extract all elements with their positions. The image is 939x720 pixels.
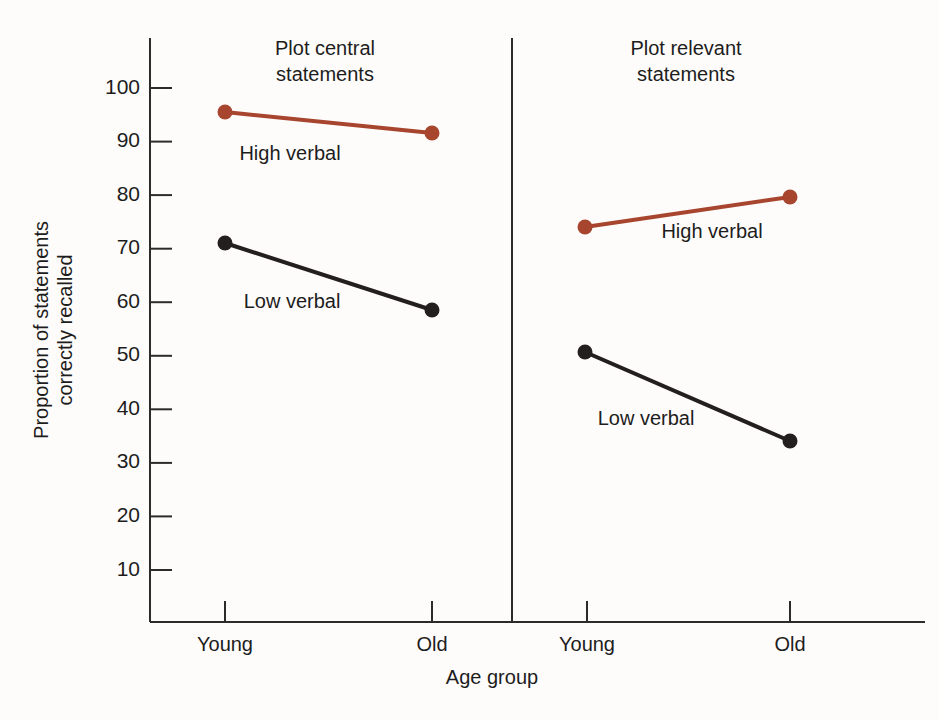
panel-central-low-verbal-label: Low verbal — [244, 290, 341, 312]
x-tick-label-right-old: Old — [774, 633, 805, 655]
y-tick-label: 100 — [105, 75, 140, 98]
panel-central: Plot central statements High verbal Low … — [218, 37, 440, 318]
chart-figure: 100 90 80 70 60 50 40 30 20 10 Young — [0, 0, 939, 720]
x-tick-label-right-young: Young — [559, 633, 615, 655]
y-tick-label: 90 — [117, 128, 140, 151]
panel-relevant-series-high-verbal: High verbal — [578, 190, 798, 243]
line-chart-svg: 100 90 80 70 60 50 40 30 20 10 Young — [0, 0, 939, 720]
panel-relevant-series-low-verbal: Low verbal — [578, 345, 798, 449]
panel-relevant-title-line2: statements — [637, 63, 735, 85]
panel-relevant-low-verbal-label: Low verbal — [598, 407, 695, 429]
panel-central-high-verbal-marker-young — [218, 105, 233, 120]
y-axis-title-line1: Proportion of statements — [30, 221, 52, 439]
y-tick-label: 70 — [117, 235, 140, 258]
y-axis-title-line2: correctly recalled — [54, 254, 76, 405]
panel-central-title-line2: statements — [276, 63, 374, 85]
panel-relevant-high-verbal-label: High verbal — [661, 220, 762, 242]
y-tick-label: 20 — [117, 503, 140, 526]
y-tick-label: 10 — [117, 557, 140, 580]
y-ticks-group: 100 90 80 70 60 50 40 30 20 10 — [105, 75, 172, 580]
x-ticks-group: Young Old Young Old — [197, 601, 806, 655]
panel-relevant-low-verbal-marker-young — [578, 345, 593, 360]
y-tick-label: 80 — [117, 182, 140, 205]
panel-central-low-verbal-marker-young — [218, 236, 233, 251]
panel-central-series-low-verbal: Low verbal — [218, 236, 440, 318]
x-tick-label-left-young: Young — [197, 633, 253, 655]
panel-relevant-low-verbal-marker-old — [783, 434, 798, 449]
panel-central-low-verbal-marker-old — [425, 303, 440, 318]
panel-central-high-verbal-line — [225, 112, 432, 133]
y-tick-label: 50 — [117, 342, 140, 365]
panel-central-high-verbal-marker-old — [425, 126, 440, 141]
panel-relevant-title-line1: Plot relevant — [630, 37, 742, 59]
x-axis-title: Age group — [446, 666, 538, 688]
axes-group — [150, 38, 925, 622]
panel-relevant: Plot relevant statements High verbal Low… — [578, 37, 798, 449]
y-tick-label: 60 — [117, 289, 140, 312]
panel-central-high-verbal-label: High verbal — [239, 142, 340, 164]
x-tick-label-left-old: Old — [416, 633, 447, 655]
panel-central-title-line1: Plot central — [275, 37, 375, 59]
y-tick-label: 40 — [117, 396, 140, 419]
panel-relevant-high-verbal-marker-old — [783, 190, 798, 205]
y-tick-label: 30 — [117, 449, 140, 472]
panel-relevant-high-verbal-marker-young — [578, 220, 593, 235]
panel-central-series-high-verbal: High verbal — [218, 105, 440, 165]
